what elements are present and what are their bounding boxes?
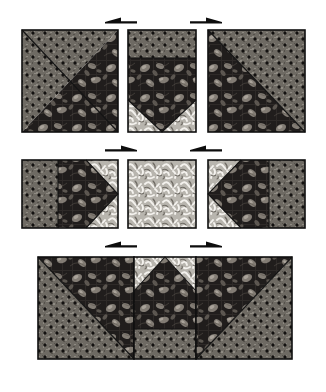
- patch-dotted-top-strip: [128, 30, 196, 58]
- unit-mid-center: [128, 160, 196, 228]
- unit-top-left: [22, 30, 118, 132]
- unit-top-right: [208, 30, 305, 132]
- patch-dotted-right-strip: [269, 160, 305, 228]
- diagram-stage: [0, 0, 326, 392]
- unit-bot-left: [38, 257, 134, 359]
- quilt-assembly-diagram: [0, 0, 326, 392]
- unit-bot-center: [134, 257, 196, 359]
- patch-dotted-bottom-strip: [134, 329, 196, 359]
- unit-mid-left: [22, 160, 118, 228]
- unit-bot-right: [196, 257, 292, 359]
- row-3-group: [38, 242, 292, 360]
- row-1-group: [22, 18, 305, 133]
- unit-mid-right: [208, 160, 305, 228]
- unit-top-center: [128, 30, 196, 132]
- patch-dotted-left-strip: [22, 160, 58, 228]
- patch-light-center: [128, 160, 196, 228]
